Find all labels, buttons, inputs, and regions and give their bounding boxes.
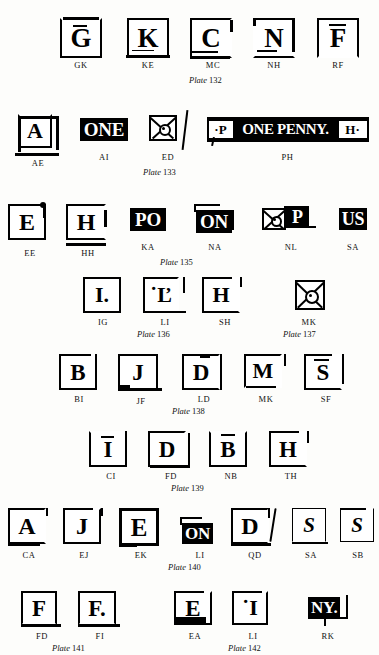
mark-item-ld[interactable]: D LD <box>178 354 230 404</box>
mark-figure: S <box>340 508 376 548</box>
frame-right-fragment <box>104 210 107 227</box>
frame-top-rule <box>18 116 58 119</box>
frame-top-rule <box>340 508 366 510</box>
mark-item-ee[interactable]: E EE <box>4 198 56 258</box>
mark-item-mk[interactable]: MK <box>282 277 336 327</box>
ink-smudge <box>73 25 87 27</box>
mark-figure: P <box>260 198 322 240</box>
plate-label-139: Plate 139 <box>171 483 204 493</box>
cross-center-dot <box>309 294 312 297</box>
mark-item-gk[interactable]: G GK <box>55 18 107 70</box>
stamp-wordmark: ONE <box>80 118 128 141</box>
frame-right-fragment <box>284 354 286 366</box>
mark-code: HH <box>62 248 114 258</box>
mark-item-li3[interactable]: ˙I LI <box>228 591 278 641</box>
frame-corner-fragment <box>95 354 97 360</box>
plate-number: 133 <box>163 167 176 177</box>
mark-item-nh[interactable]: N NH <box>248 18 300 70</box>
mark-item-hh[interactable]: H HH <box>62 198 114 258</box>
mark-item-ka[interactable]: PO KA <box>118 198 178 252</box>
mark-item-jf[interactable]: J JF <box>115 354 167 406</box>
plate-label-137: Plate 137 <box>283 329 316 339</box>
plate-number: 135 <box>180 257 193 267</box>
mark-item-ae[interactable]: A AE <box>10 108 66 168</box>
stamp-glyph: ˙I <box>242 597 258 619</box>
plate-word: Plate <box>228 643 246 653</box>
mark-item-ke[interactable]: K KE <box>122 18 174 70</box>
mark-item-li2[interactable]: ON LI <box>172 508 228 560</box>
mark-item-sf[interactable]: S SF <box>300 354 352 404</box>
mark-item-rk[interactable]: NY. RK <box>300 591 356 641</box>
plate-number: 132 <box>209 75 222 85</box>
frame-right-fragment <box>46 508 48 516</box>
mark-item-th[interactable]: H TH <box>265 431 317 481</box>
mark-item-sa[interactable]: US SA <box>330 198 376 252</box>
mark-item-mc[interactable]: C MC <box>185 18 241 70</box>
mark-item-ea[interactable]: E EA <box>170 591 220 641</box>
mark-figure: H <box>202 277 248 315</box>
stamp-glyph: H <box>279 438 297 461</box>
mark-item-li[interactable]: ˙Ľ LI <box>140 277 190 327</box>
frame-right-fragment <box>307 431 309 443</box>
mark-code: LI <box>172 550 228 560</box>
plate-word: Plate <box>283 329 301 339</box>
frame-left-fragment <box>253 18 256 26</box>
stamp-frame: E <box>8 204 46 240</box>
mark-code: RK <box>300 631 356 641</box>
mark-code: GK <box>55 60 107 70</box>
mark-item-ig[interactable]: I. IG <box>78 277 128 327</box>
mark-item-fi[interactable]: F. FI <box>75 591 125 641</box>
mark-code: QD <box>228 550 282 560</box>
mark-figure: S <box>304 354 348 392</box>
mark-item-rf[interactable]: F RF <box>312 18 364 70</box>
frame-right-rule <box>346 595 348 617</box>
mark-item-bi[interactable]: B BI <box>55 354 103 404</box>
stamp-glyph: H <box>77 210 96 234</box>
mark-figure: J <box>63 508 105 548</box>
plate-label-140: Plate 140 <box>168 562 201 572</box>
stamp-frame: K <box>127 18 169 58</box>
mark-item-mk2[interactable]: M MK <box>240 354 292 404</box>
ink-smudge <box>101 436 114 438</box>
frame-bottom-rule <box>126 55 170 58</box>
mark-item-ci[interactable]: I CI <box>85 431 137 481</box>
frame-bottom-rule <box>292 542 328 544</box>
cross-center-dot <box>162 127 165 130</box>
mark-item-ca[interactable]: A CA <box>5 508 53 560</box>
mark-code: EA <box>170 631 220 641</box>
mark-item-ai[interactable]: ONE AI <box>70 108 138 162</box>
mark-item-ek[interactable]: E EK <box>115 508 167 560</box>
cross-center-ring <box>271 216 282 227</box>
mark-figure: N <box>253 18 295 58</box>
stamp-glyph: J <box>132 361 144 384</box>
stray-tick <box>324 618 326 626</box>
stamp-wordmark: US <box>339 208 367 230</box>
mark-item-fd[interactable]: D FD <box>145 431 197 481</box>
mark-item-ph[interactable]: ·P ONE PENNY. H· PH <box>200 108 375 162</box>
mark-item-sh[interactable]: H SH <box>198 277 252 327</box>
mark-item-ej[interactable]: J EJ <box>60 508 108 560</box>
mark-item-sa2[interactable]: S SA <box>288 508 334 560</box>
frame-bottom-rule <box>190 56 230 59</box>
mark-figure: J <box>118 354 164 394</box>
mark-item-na[interactable]: ON NA <box>185 198 245 252</box>
mark-item-nl[interactable]: P NL <box>258 198 324 252</box>
mark-code: MC <box>185 60 241 70</box>
mark-item-nb[interactable]: B NB <box>205 431 257 481</box>
mark-figure: ˙I <box>232 591 274 629</box>
stray-dot <box>40 202 46 208</box>
mark-code: AE <box>10 158 66 168</box>
mark-item-fd2[interactable]: F FD <box>18 591 66 641</box>
mark-item-qd[interactable]: D QD <box>228 508 282 560</box>
mark-item-sb[interactable]: S SB <box>338 508 378 560</box>
frame-right-fragment <box>183 277 185 293</box>
ink-smudge <box>132 50 154 51</box>
mark-item-ed[interactable]: ED <box>140 108 196 162</box>
mark-figure: B <box>59 354 99 392</box>
frame-right-rule <box>125 431 127 467</box>
frame-bottom-rule <box>231 543 271 546</box>
stamp-glyph: M <box>253 360 274 382</box>
stamp-frame: D <box>231 508 269 544</box>
cross-center-ring <box>305 290 319 304</box>
penny-bar-right-letter: H· <box>337 119 369 140</box>
